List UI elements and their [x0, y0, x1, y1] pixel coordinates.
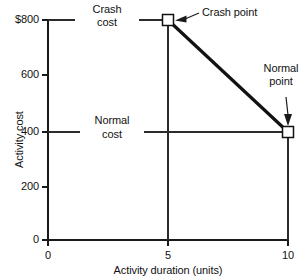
normal-point-label-line2: point — [255, 75, 307, 88]
x-axis-title: Activity duration (units) — [48, 264, 288, 277]
chart-canvas — [0, 0, 307, 280]
normal-point-leader — [286, 97, 288, 115]
cost-duration-chart: $800 600 400 200 0 0 5 10 Activity durat… — [0, 0, 307, 280]
crash-point-label: Crash point — [202, 6, 274, 19]
x-tick-label-0: 0 — [28, 249, 68, 262]
normal-point-label-line1: Normal — [255, 62, 307, 75]
x-tick-label-5: 5 — [148, 249, 188, 262]
crash-cost-label-line2: cost — [75, 16, 139, 29]
crash-cost-label-line1: Crash — [75, 3, 139, 16]
normal-point-arrow-icon — [284, 114, 292, 126]
y-tick-label-0: 0 — [0, 233, 39, 246]
crash-point-leader — [185, 13, 199, 19]
crash-point-arrow-icon — [175, 16, 187, 23]
crash-point-marker — [163, 15, 174, 26]
normal-cost-label-line2: cost — [80, 128, 144, 141]
y-axis-title: Activity cost — [13, 111, 26, 168]
y-tick-label-200: 200 — [0, 180, 39, 193]
normal-cost-label-line1: Normal — [80, 114, 144, 127]
y-tick-label-800: $800 — [0, 13, 39, 26]
normal-point-marker — [283, 127, 294, 138]
y-tick-label-600: 600 — [0, 68, 39, 81]
x-tick-label-10: 10 — [268, 249, 307, 262]
